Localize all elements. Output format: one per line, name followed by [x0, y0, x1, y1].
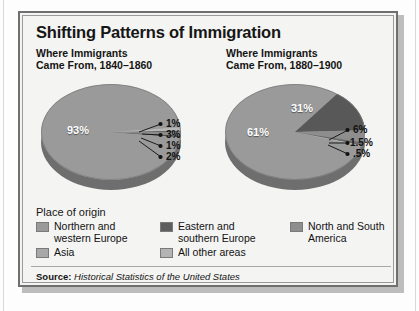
source-title: Historical Statistics of the United Stat…: [74, 271, 240, 282]
source-label: Source:: [36, 271, 71, 282]
source-divider: [31, 266, 391, 267]
legend-swatch-eastern-southern-europe: [160, 222, 173, 232]
figure-page: Shifting Patterns of Immigration Where I…: [0, 0, 419, 311]
legend-item-eastern-southern-europe: Eastern and southern Europe: [160, 221, 256, 244]
legend-swatch-northern-western-europe: [36, 222, 49, 232]
legend-item-north-south-america: North and South America: [290, 221, 384, 244]
chart-left-subtitle: Where Immigrants Came From, 1840–1860: [36, 48, 152, 71]
page-edge-left: [3, 0, 4, 311]
legend-swatch-north-south-america: [290, 222, 303, 232]
pie-right-callout-1: 6%: [353, 124, 367, 135]
figure-frame-inner: Shifting Patterns of Immigration Where I…: [22, 15, 394, 283]
pie-left-callout-4: 2%: [166, 151, 180, 162]
source-line: Source: Historical Statistics of the Uni…: [36, 271, 240, 282]
pie-chart-left: 93% 1% 3% 1% 2%: [35, 78, 200, 198]
page-edge-right: [415, 0, 416, 311]
figure-frame: Shifting Patterns of Immigration Where I…: [18, 11, 398, 287]
legend-label-asia: Asia: [54, 247, 74, 259]
legend-item-all-other-areas: All other areas: [160, 247, 246, 259]
pie-right-callout-3: .5%: [353, 148, 370, 159]
pie-left-callout-3: 1%: [166, 140, 180, 151]
legend-label-eastern-southern-europe: Eastern and southern Europe: [178, 221, 256, 244]
pie-left-callout-2: 3%: [166, 129, 180, 140]
legend: Northern and western Europe Eastern and …: [36, 221, 391, 271]
legend-item-northern-western-europe: Northern and western Europe: [36, 221, 128, 244]
legend-label-northern-western-europe: Northern and western Europe: [54, 221, 128, 244]
legend-label-north-south-america: North and South America: [308, 221, 384, 244]
legend-item-asia: Asia: [36, 247, 74, 259]
legend-label-all-other-areas: All other areas: [178, 247, 246, 259]
legend-swatch-asia: [36, 248, 49, 258]
legend-title: Place of origin: [36, 206, 106, 218]
figure-title: Shifting Patterns of Immigration: [36, 23, 281, 42]
legend-swatch-all-other-areas: [160, 248, 173, 258]
pie-left-callout-1: 1%: [166, 118, 180, 129]
pie-chart-right: 61% 31% 6% 1.5% .5%: [219, 78, 384, 198]
pie-right-callout-2: 1.5%: [350, 137, 373, 148]
legend-row-1: Northern and western Europe Eastern and …: [36, 221, 391, 245]
chart-right-subtitle: Where Immigrants Came From, 1880–1900: [226, 48, 342, 71]
legend-row-2: Asia All other areas: [36, 247, 391, 271]
